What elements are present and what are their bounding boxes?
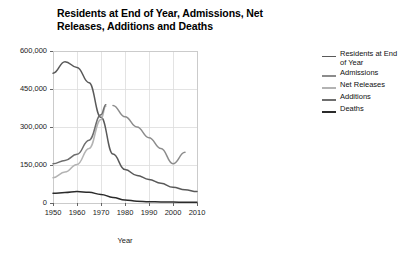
legend-line-swatch	[322, 53, 336, 60]
legend-item[interactable]: Admissions	[322, 69, 402, 79]
legend-item-label: Residents at End of Year	[340, 50, 402, 67]
x-axis-title: Year	[0, 236, 250, 245]
x-tick-label: 1980	[113, 208, 137, 217]
y-tick-label: 150,000	[0, 160, 47, 169]
legend-item-label: Deaths	[340, 105, 364, 114]
legend-line-swatch	[322, 96, 336, 103]
legend-item-label: Admissions	[340, 69, 378, 78]
legend-line-swatch	[322, 84, 336, 91]
legend-item[interactable]: Additions	[322, 93, 402, 103]
chart-figure: Residents at End of Year, Admissions, Ne…	[0, 0, 402, 260]
y-tick-label: 300,000	[0, 122, 47, 131]
chart-legend: Residents at End of YearAdmissionsNet Re…	[322, 50, 402, 117]
legend-item[interactable]: Net Releases	[322, 81, 402, 91]
x-tick-label: 1950	[41, 208, 65, 217]
plot-frame	[50, 51, 197, 206]
plot-area	[0, 0, 402, 260]
y-tick-label: 0	[0, 198, 47, 207]
gridlines	[53, 51, 197, 203]
legend-item[interactable]: Residents at End of Year	[322, 50, 402, 67]
legend-line-swatch	[322, 72, 336, 79]
x-tick-label: 1970	[89, 208, 113, 217]
legend-item-label: Net Releases	[340, 81, 385, 90]
y-tick-label: 600,000	[0, 46, 47, 55]
x-tick-label: 1990	[137, 208, 161, 217]
legend-item-label: Additions	[340, 93, 371, 102]
x-tick-label: 2000	[161, 208, 185, 217]
y-tick-label: 450,000	[0, 84, 47, 93]
x-tick-label: 1960	[65, 208, 89, 217]
legend-line-swatch	[322, 108, 336, 115]
legend-item[interactable]: Deaths	[322, 105, 402, 115]
x-tick-label: 2010	[185, 208, 209, 217]
